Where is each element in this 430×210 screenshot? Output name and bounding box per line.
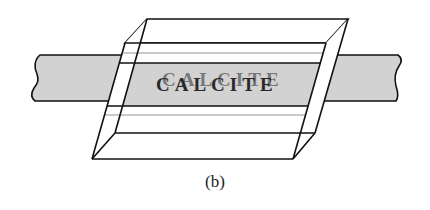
crystal-top-face [125,19,348,43]
figure-caption: (b) [0,172,430,192]
calcite-text: CALCITE [156,74,278,95]
